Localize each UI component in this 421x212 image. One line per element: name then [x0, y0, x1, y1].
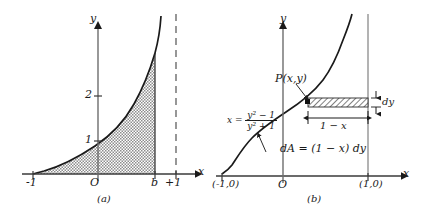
tick-label-y-1-a: 1 [85, 133, 92, 146]
area-element-strip [308, 98, 368, 107]
point-p-leader [296, 84, 306, 97]
axis-label-x-a: x [198, 165, 204, 178]
tick-label-x-minus1-a: -1 [26, 176, 37, 189]
curve-equation-denominator: y² + 1 [245, 121, 277, 131]
curve-equation-fraction: y² − 1 y² + 1 [245, 110, 277, 132]
figure-container: y x -1 O b +1 1 2 (a) [0, 0, 421, 212]
origin-label-b: O [278, 178, 287, 191]
width-label-1-minus-x: 1 − x [320, 120, 347, 131]
equation-leader-b [259, 136, 266, 152]
tick-label-x-b-a: b [151, 176, 158, 189]
curve-equation-lhs: x = [227, 115, 242, 125]
thickness-label-dy: dy [382, 96, 394, 107]
tick-label-y-2-a: 2 [85, 88, 92, 101]
curve-equation-numerator: y² − 1 [245, 110, 277, 121]
caption-panel-a: (a) [97, 193, 111, 204]
axis-label-y-b: y [280, 12, 286, 25]
origin-label-a: O [90, 176, 99, 189]
tick-label-x-plus1-a: +1 [165, 176, 181, 189]
axis-label-y-a: y [90, 12, 96, 25]
axis-label-x-b: x [403, 167, 409, 180]
point-p-label: P(x,y) [275, 72, 307, 85]
area-element-equation: dA = (1 − x) dy [280, 142, 366, 155]
left-point-label-b: (-1,0) [212, 178, 239, 189]
right-point-label-b: (1,0) [359, 178, 383, 189]
point-p-marker [305, 99, 310, 104]
curve-equation-b: x = y² − 1 y² + 1 [227, 110, 277, 132]
caption-panel-b: (b) [307, 193, 321, 204]
shaded-area-a [33, 53, 155, 174]
